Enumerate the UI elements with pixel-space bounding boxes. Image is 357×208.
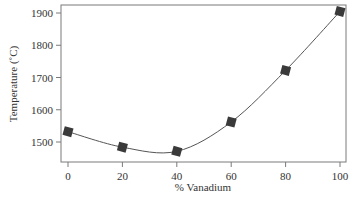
x-tick-label: 0 (65, 170, 71, 182)
y-tick-label: 1700 (31, 72, 54, 84)
data-markers (62, 6, 345, 157)
data-line (68, 11, 340, 153)
x-axis: 020406080100 (65, 162, 349, 182)
plot-frame (61, 5, 346, 162)
y-tick-label: 1800 (31, 39, 54, 51)
x-tick-label: 100 (332, 170, 349, 182)
x-tick-label: 20 (117, 170, 129, 182)
data-point-marker (117, 142, 128, 153)
x-axis-title: % Vanadium (175, 181, 232, 193)
chart-canvas: 15001600170018001900 020406080100 % Vana… (0, 0, 357, 208)
y-axis-title: Temperature (˚C) (7, 45, 20, 122)
y-axis: 15001600170018001900 (31, 7, 61, 148)
x-tick-label: 80 (280, 170, 292, 182)
data-point-marker (171, 146, 182, 157)
y-tick-label: 1500 (31, 136, 54, 148)
y-tick-label: 1600 (31, 104, 54, 116)
y-tick-label: 1900 (31, 7, 54, 19)
data-point-marker (226, 116, 237, 127)
data-point-marker (62, 126, 73, 137)
